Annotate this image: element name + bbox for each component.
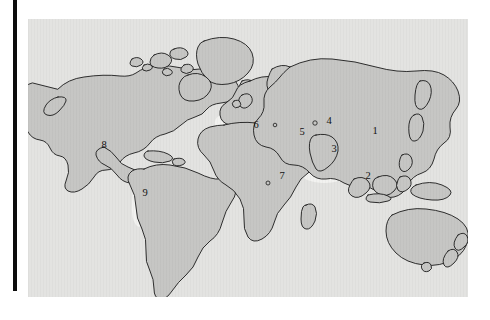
land-arctic-island-c	[130, 58, 143, 67]
land-cuba	[144, 151, 173, 163]
figure-root: 1 2 3 4 5 6 7 8 9	[0, 0, 490, 320]
land-sulawesi	[397, 176, 412, 192]
land-arctic-island-b	[170, 48, 188, 60]
landmasses-layer	[28, 37, 468, 297]
land-hispaniola	[172, 158, 185, 166]
land-new-guinea	[411, 183, 451, 201]
land-arctic-island-e	[162, 68, 172, 76]
world-map-panel: 1 2 3 4 5 6 7 8 9	[28, 19, 468, 297]
land-arctic-island-a	[150, 53, 172, 68]
marker-east-africa	[266, 181, 270, 185]
marker-sicily	[273, 123, 277, 127]
marker-caspian	[313, 121, 317, 125]
land-tasmania	[421, 262, 431, 271]
land-south-america	[128, 165, 236, 298]
land-ireland	[232, 100, 241, 108]
land-arctic-island-f	[181, 64, 193, 73]
land-madagascar	[301, 204, 317, 229]
page-edge-bar	[13, 0, 17, 291]
world-map-svg: 1 2 3 4 5 6 7 8 9	[28, 19, 468, 297]
land-arctic-island-d	[142, 64, 152, 71]
